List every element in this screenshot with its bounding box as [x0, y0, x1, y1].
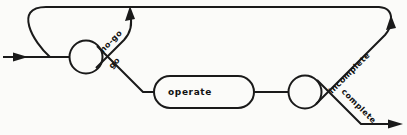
- complete-edge-label: complete: [340, 87, 378, 125]
- operate-label: operate: [168, 87, 212, 97]
- no-go-edge-label: no-go: [98, 28, 124, 54]
- no-go-arrowhead-icon: [125, 6, 135, 21]
- incomplete-edge-label: incomplete: [327, 51, 372, 96]
- feedback-loop-line: [28, 7, 391, 57]
- complete-arrowhead-icon: [388, 120, 403, 129]
- incomplete-arrowhead-icon: [386, 15, 396, 30]
- flow-diagram: operate no-go go incomplete complete: [0, 0, 407, 135]
- flow-diagram-canvas: operate no-go go incomplete complete: [0, 0, 407, 135]
- entry-arrowhead-icon: [13, 53, 28, 62]
